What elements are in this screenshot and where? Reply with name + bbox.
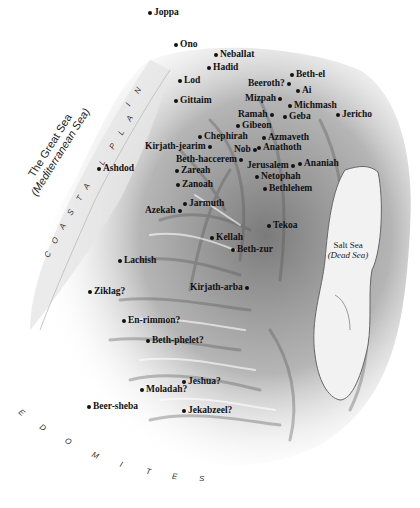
place-name: Beth-el: [296, 69, 325, 79]
place-gibeon: Gibeon: [236, 121, 272, 131]
city-dot-icon: [208, 145, 212, 149]
city-dot-icon: [178, 209, 182, 213]
place-en-rimmon: En-rimmon?: [122, 316, 180, 326]
place-zareah: Zareah: [175, 166, 210, 176]
place-name: Ziklag?: [94, 286, 125, 296]
place-nob: Nob: [234, 145, 257, 155]
city-dot-icon: [290, 73, 294, 77]
place-neballat: Neballat: [214, 50, 254, 60]
city-dot-icon: [231, 248, 235, 252]
place-moladah: Moladah?: [140, 385, 187, 395]
place-kellah: Kellah: [210, 233, 243, 243]
place-jerusalem: Jerusalem: [247, 161, 295, 171]
place-lod: Lod: [178, 76, 200, 86]
place-zanoah: Zanoah: [176, 180, 213, 190]
city-dot-icon: [245, 286, 249, 290]
place-anathoth: Anathoth: [257, 143, 302, 153]
place-tekoa: Tekoa: [267, 221, 297, 231]
place-name: Netophah: [261, 171, 301, 181]
place-ono: Ono: [174, 40, 197, 50]
place-name: Joppa: [154, 7, 179, 17]
place-name: Gittaim: [180, 95, 212, 105]
place-name: Beth-zur: [237, 244, 273, 254]
place-name: Bethlehem: [269, 183, 312, 193]
city-dot-icon: [291, 164, 295, 168]
place-name: Zanoah: [182, 179, 213, 189]
place-name: Michmash: [294, 100, 337, 110]
place-kirjath-arba: Kirjath-arba: [190, 283, 249, 293]
place-name: Kirjath-jearim: [145, 141, 206, 151]
place-ananiah: Ananiah: [298, 159, 339, 169]
city-dot-icon: [263, 187, 267, 191]
city-dot-icon: [296, 89, 300, 93]
place-beth-phelet: Beth-phelet?: [146, 336, 204, 346]
place-name: Kellah: [216, 232, 243, 242]
place-ashdod: Ashdod: [97, 164, 134, 174]
place-jericho: Jericho: [336, 110, 372, 120]
place-name: Neballat: [220, 49, 254, 59]
place-gittaim: Gittaim: [174, 96, 212, 106]
place-name: Ono: [180, 39, 197, 49]
place-name: Ramah: [238, 109, 268, 119]
place-name: Azekah: [145, 205, 176, 215]
place-hadid: Hadid: [207, 63, 238, 73]
city-dot-icon: [88, 290, 92, 294]
city-dot-icon: [118, 259, 122, 263]
place-name: Moladah?: [146, 384, 187, 394]
place-name: Nob: [234, 144, 251, 154]
place-beeroth: Beeroth?: [248, 79, 291, 89]
place-beer-sheba: Beer-sheba: [87, 402, 138, 412]
place-name: Chephirah: [204, 131, 248, 141]
salt-sea-name: Salt Sea: [318, 240, 378, 250]
city-dot-icon: [146, 339, 150, 343]
place-kirjath-jearim: Kirjath-jearim: [145, 142, 212, 152]
place-name: Kirjath-arba: [190, 282, 243, 292]
city-dot-icon: [257, 146, 261, 150]
city-dot-icon: [288, 104, 292, 108]
city-dot-icon: [255, 175, 259, 179]
place-beth-el: Beth-el: [290, 70, 325, 80]
city-dot-icon: [140, 388, 144, 392]
city-dot-icon: [336, 113, 340, 117]
place-ziklag: Ziklag?: [88, 287, 125, 297]
place-mizpah: Mizpah: [245, 94, 282, 104]
place-name: Azmaveth: [268, 132, 309, 142]
place-name: Jekabzeel?: [188, 405, 232, 415]
city-dot-icon: [267, 224, 271, 228]
city-dot-icon: [176, 183, 180, 187]
place-name: Ananiah: [304, 158, 339, 168]
city-dot-icon: [239, 158, 243, 162]
edomites-letter: E: [172, 472, 178, 482]
place-geba: Geba: [283, 112, 311, 122]
place-name: Jarmuth: [189, 198, 224, 208]
city-dot-icon: [270, 113, 274, 117]
city-dot-icon: [122, 319, 126, 323]
place-name: Lachish: [124, 255, 156, 265]
place-name: Lod: [184, 75, 200, 85]
city-dot-icon: [210, 236, 214, 240]
city-dot-icon: [175, 169, 179, 173]
city-dot-icon: [287, 82, 291, 86]
city-dot-icon: [174, 99, 178, 103]
place-name: Tekoa: [273, 220, 297, 230]
place-name: Beer-sheba: [93, 401, 138, 411]
city-dot-icon: [198, 135, 202, 139]
place-name: Beth-phelet?: [152, 335, 204, 345]
place-name: Anathoth: [263, 142, 302, 152]
city-dot-icon: [298, 162, 302, 166]
place-ramah: Ramah: [238, 110, 274, 120]
place-name: Gibeon: [242, 120, 272, 130]
edomites-letter: S: [199, 474, 204, 483]
place-jekabzeel: Jekabzeel?: [182, 406, 232, 416]
city-dot-icon: [87, 405, 91, 409]
salt-sea-subname: (Dead Sea): [318, 250, 378, 260]
place-jeshua: Jeshua?: [182, 377, 221, 387]
place-name: Geba: [289, 111, 311, 121]
place-name: Hadid: [213, 62, 238, 72]
place-name: En-rimmon?: [128, 315, 180, 325]
place-name: Zareah: [181, 165, 210, 175]
city-dot-icon: [283, 115, 287, 119]
place-name: Beeroth?: [248, 78, 285, 88]
map: The Great Sea (Mediterranean Sea) Salt S…: [0, 0, 420, 508]
place-name: Beth-haccerem: [176, 154, 237, 164]
